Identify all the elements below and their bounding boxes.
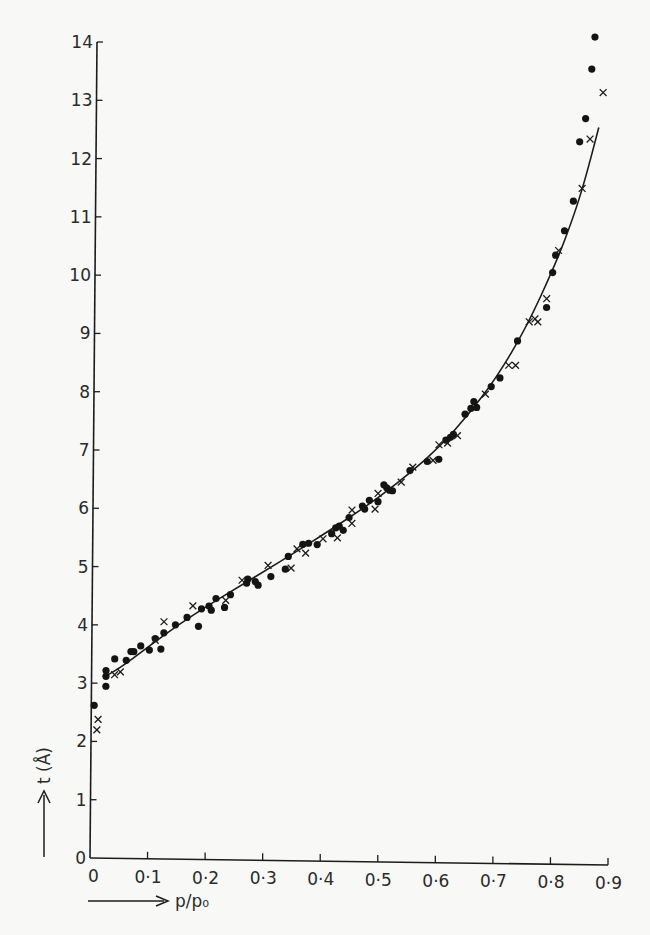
y-tick-label: 6 (78, 498, 89, 518)
y-tick-label: 7 (79, 440, 90, 460)
data-point-dot (111, 655, 118, 662)
x-axis-line (90, 858, 608, 865)
data-point-dot (514, 337, 521, 344)
data-point-dot (473, 404, 480, 411)
data-point-dot (146, 647, 153, 654)
data-point-dot (389, 487, 396, 494)
data-point-cross-icon (222, 597, 229, 604)
y-tick-label: 3 (77, 673, 88, 693)
data-point-dot (549, 269, 556, 276)
data-point-dot (496, 374, 503, 381)
data-point-dot (183, 614, 190, 621)
y-tick-label: 10 (69, 265, 91, 285)
data-point-cross-icon (334, 534, 341, 541)
data-point-dot (488, 383, 495, 390)
data-point-dot (172, 621, 179, 628)
data-point-cross-icon (600, 89, 607, 96)
data-point-dot (461, 411, 468, 418)
data-point-cross-icon (320, 535, 327, 542)
data-point-dot (285, 553, 292, 560)
data-point-dot (435, 456, 442, 463)
y-tick-label: 12 (70, 149, 92, 169)
data-point-dot (137, 642, 144, 649)
y-tick-label: 0 (75, 848, 86, 868)
x-tick-label: 0 (88, 866, 99, 886)
data-point-dot (374, 498, 381, 505)
chart-canvas: 00·10·20·30·40·50·60·70·80·9 01234567891… (0, 0, 650, 935)
series-crosses (93, 89, 606, 733)
data-point-dot (227, 591, 234, 598)
y-tick-label: 8 (79, 382, 90, 402)
x-tick-label: 0·8 (537, 872, 564, 892)
data-point-cross-icon (543, 295, 550, 302)
data-point-dot (102, 667, 109, 674)
data-point-dot (361, 505, 368, 512)
data-point-cross-icon (95, 716, 102, 723)
x-tick-label: 0·3 (250, 868, 277, 888)
data-point-dot (255, 582, 262, 589)
data-point-dot (157, 646, 164, 653)
data-point-dot (212, 595, 219, 602)
data-point-cross-icon (512, 362, 519, 369)
data-point-cross-icon (372, 506, 379, 513)
y-tick-label: 9 (80, 323, 91, 343)
y-tick-label: 1 (76, 790, 87, 810)
data-point-cross-icon (189, 602, 196, 609)
data-point-dot (123, 657, 130, 664)
data-point-cross-icon (505, 362, 512, 369)
data-point-cross-icon (349, 507, 356, 514)
x-axis-label: p/p₀ (175, 891, 209, 911)
data-point-dot (102, 683, 109, 690)
data-point-dot (588, 65, 595, 72)
data-point-dot (305, 540, 312, 547)
x-axis-label-group: p/p₀ (88, 891, 209, 911)
data-point-cross-icon (534, 319, 541, 326)
x-tick-label: 0·2 (192, 868, 219, 888)
data-point-dot (424, 458, 431, 465)
data-point-dot (582, 115, 589, 122)
data-point-dot (198, 605, 205, 612)
data-point-dot (561, 227, 568, 234)
fitted-curve (103, 127, 599, 677)
y-axis-ticks: 01234567891011121314 (69, 32, 103, 868)
y-tick-label: 13 (71, 90, 93, 110)
y-tick-label: 4 (77, 615, 88, 635)
x-tick-label: 0·1 (135, 867, 162, 887)
data-point-dot (267, 573, 274, 580)
data-point-cross-icon (265, 562, 272, 569)
data-point-dot (130, 648, 137, 655)
data-point-cross-icon (161, 618, 168, 625)
data-point-dot (244, 576, 251, 583)
data-point-dot (195, 623, 202, 630)
data-point-dot (366, 497, 373, 504)
data-point-dot (221, 604, 228, 611)
y-axis-label: t (Å) (33, 747, 54, 784)
x-tick-label: 0·5 (365, 870, 392, 890)
data-point-dot (340, 527, 347, 534)
data-point-dot (328, 530, 335, 537)
y-tick-label: 2 (76, 731, 87, 751)
data-point-cross-icon (302, 550, 309, 557)
data-point-dot (282, 566, 289, 573)
data-point-cross-icon (375, 490, 382, 497)
y-axis-label-group: t (Å) (33, 747, 54, 857)
x-axis-ticks: 00·10·20·30·40·50·60·70·80·9 (88, 852, 622, 893)
x-tick-label: 0·4 (307, 869, 334, 889)
x-tick-label: 0·9 (595, 873, 622, 893)
series-filled-circles (91, 33, 599, 708)
data-point-dot (543, 304, 550, 311)
data-point-cross-icon (587, 136, 594, 143)
y-tick-label: 5 (78, 557, 89, 577)
data-point-dot (91, 702, 98, 709)
x-tick-label: 0·7 (480, 871, 507, 891)
data-point-dot (570, 198, 577, 205)
data-point-cross-icon (349, 520, 356, 527)
data-point-dot (160, 629, 167, 636)
axes (90, 42, 608, 865)
y-tick-label: 11 (70, 207, 92, 227)
x-tick-label: 0·6 (422, 871, 449, 891)
data-point-dot (591, 33, 598, 40)
data-point-cross-icon (93, 726, 100, 733)
data-point-dot (576, 138, 583, 145)
data-point-dot (208, 607, 215, 614)
